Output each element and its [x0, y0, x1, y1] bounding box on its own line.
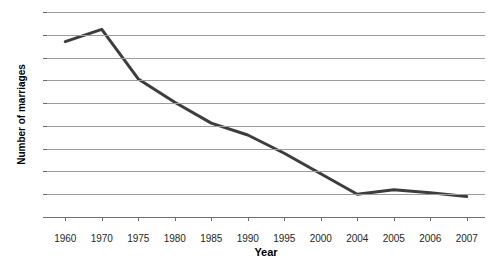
y-tick-mark-60: [43, 103, 47, 104]
x-tick-mark-1985: [211, 217, 212, 221]
series-line-number-of-marriages: [47, 12, 485, 217]
gridline-50: [47, 149, 485, 150]
x-tick-mark-1975: [138, 217, 139, 221]
y-tick-mark-55: [43, 126, 47, 127]
gridline-70: [47, 58, 485, 59]
plot-area: 3540455055606570758019601970197519801985…: [47, 12, 485, 217]
x-tick-mark-2007: [467, 217, 468, 221]
x-tick-mark-1960: [65, 217, 66, 221]
x-tick-mark-2004: [357, 217, 358, 221]
x-tick-mark-2000: [321, 217, 322, 221]
y-tick-mark-50: [43, 149, 47, 150]
x-tick-mark-1990: [248, 217, 249, 221]
x-axis-title: Year: [47, 246, 485, 258]
x-tick-mark-1970: [102, 217, 103, 221]
x-tick-mark-2006: [430, 217, 431, 221]
gridline-55: [47, 126, 485, 127]
y-tick-mark-35: [43, 217, 47, 218]
x-axis-line: [47, 217, 485, 218]
gridline-45: [47, 171, 485, 172]
y-tick-mark-70: [43, 58, 47, 59]
gridline-40: [47, 194, 485, 195]
y-tick-mark-45: [43, 171, 47, 172]
x-tick-mark-1980: [175, 217, 176, 221]
y-tick-mark-75: [43, 35, 47, 36]
y-tick-mark-65: [43, 80, 47, 81]
x-tick-label-2007: 2007: [445, 233, 489, 244]
x-tick-mark-1995: [284, 217, 285, 221]
gridline-75: [47, 35, 485, 36]
y-axis-title: Number of marriages: [16, 40, 27, 190]
line-chart: Number of marriages 35404550556065707580…: [0, 0, 489, 267]
y-tick-mark-40: [43, 194, 47, 195]
y-tick-mark-80: [43, 12, 47, 13]
gridline-80: [47, 12, 485, 13]
gridline-60: [47, 103, 485, 104]
x-tick-mark-2005: [394, 217, 395, 221]
gridline-65: [47, 80, 485, 81]
